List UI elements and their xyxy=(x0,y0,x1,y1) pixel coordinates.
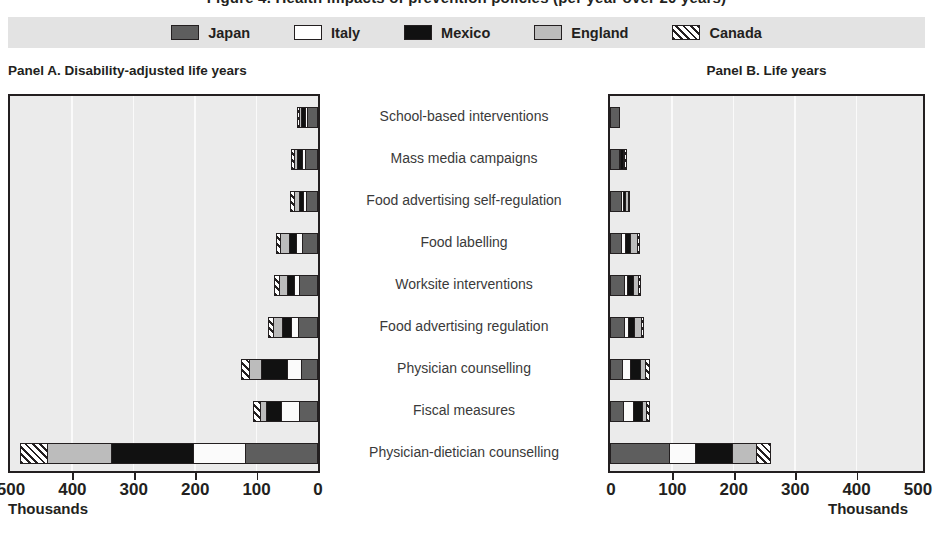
legend-label-canada: Canada xyxy=(709,25,761,41)
bar-segment-japan xyxy=(245,444,317,463)
category-label: Fiscal measures xyxy=(330,402,598,418)
axis-tick-label: 400 xyxy=(44,480,100,500)
gridline xyxy=(71,96,72,471)
axis-tick xyxy=(857,473,859,480)
legend-swatch-japan-icon xyxy=(171,25,199,40)
bar-segment-japan xyxy=(299,402,317,421)
axis-tick-label: 300 xyxy=(106,480,162,500)
bar-food-labelling xyxy=(610,233,640,254)
bar-segment-japan xyxy=(305,150,318,169)
bar-segment-japan xyxy=(611,150,619,169)
bar-segment-japan xyxy=(611,402,623,421)
bar-segment-japan xyxy=(611,234,621,253)
panel-a-caption: Panel A. Disability-adjusted life years xyxy=(8,63,247,78)
bar-segment-canada xyxy=(21,444,47,463)
gridline xyxy=(733,96,734,471)
legend-item-england: England xyxy=(534,25,628,41)
panel-b-caption: Panel B. Life years xyxy=(600,63,933,78)
axis-tick xyxy=(195,473,197,480)
legend-swatch-england-icon xyxy=(534,25,562,40)
legend-label-england: England xyxy=(571,25,628,41)
axis-tick-label: 0 xyxy=(290,480,346,500)
legend-swatch-canada-icon xyxy=(672,25,700,40)
bar-segment-mexico xyxy=(266,402,280,421)
bar-segment-japan xyxy=(307,108,317,127)
category-label: Mass media campaigns xyxy=(330,150,598,166)
bar-segment-mexico xyxy=(111,444,193,463)
legend-label-italy: Italy xyxy=(331,25,360,41)
bar-physician-dietician-counselling xyxy=(20,443,318,464)
bar-segment-england xyxy=(47,444,111,463)
axis-tick-label: 100 xyxy=(644,480,700,500)
category-label: Worksite interventions xyxy=(330,276,598,292)
bar-food-advertising-regulation xyxy=(268,317,318,338)
legend-item-japan: Japan xyxy=(171,25,250,41)
bar-segment-england xyxy=(249,360,262,379)
axis-tick-label: 400 xyxy=(829,480,885,500)
category-label: Food advertising self-regulation xyxy=(330,192,598,208)
legend-swatch-mexico-icon xyxy=(404,25,432,40)
bar-segment-canada xyxy=(624,150,625,169)
gridline xyxy=(194,96,195,471)
panel-a-plot-area xyxy=(8,94,320,473)
panel-b-plot-area xyxy=(608,94,925,473)
panel-a-unit-label: Thousands xyxy=(8,500,88,517)
bar-segment-england xyxy=(273,318,282,337)
axis-tick xyxy=(72,473,74,480)
bar-segment-japan xyxy=(611,360,622,379)
category-label: School-based interventions xyxy=(330,108,598,124)
bar-segment-canada xyxy=(756,444,770,463)
bar-worksite-interventions xyxy=(274,275,318,296)
gridline xyxy=(133,96,134,471)
bar-food-advertising-regulation xyxy=(610,317,644,338)
axis-tick xyxy=(734,473,736,480)
legend-label-japan: Japan xyxy=(208,25,250,41)
bar-segment-italy xyxy=(622,360,630,379)
axis-tick-label: 0 xyxy=(583,480,639,500)
legend-item-italy: Italy xyxy=(294,25,360,41)
bar-physician-dietician-counselling xyxy=(610,443,771,464)
axis-tick-label: 200 xyxy=(167,480,223,500)
category-label: Physician counselling xyxy=(330,360,598,376)
bar-segment-mexico xyxy=(261,360,286,379)
bar-food-advertising-self-regulation xyxy=(290,191,318,212)
bar-school-based-interventions xyxy=(610,107,620,128)
panel-b-unit-label: Thousands xyxy=(828,500,908,517)
bar-segment-canada xyxy=(641,318,643,337)
legend-swatch-italy-icon xyxy=(294,25,322,40)
axis-tick xyxy=(134,473,136,480)
bar-segment-japan xyxy=(299,276,317,295)
category-label: Food advertising regulation xyxy=(330,318,598,334)
bar-segment-italy xyxy=(669,444,695,463)
bar-segment-canada xyxy=(242,360,249,379)
gridline xyxy=(856,96,857,471)
bar-segment-mexico xyxy=(695,444,732,463)
bar-segment-mexico xyxy=(633,402,642,421)
bar-segment-italy xyxy=(193,444,245,463)
bar-segment-mexico xyxy=(630,360,639,379)
bar-segment-italy xyxy=(287,360,301,379)
bar-segment-italy xyxy=(623,402,633,421)
axis-tick xyxy=(672,473,674,480)
bar-segment-canada xyxy=(645,360,648,379)
chart-legend: Japan Italy Mexico England Canada xyxy=(8,17,925,48)
bar-segment-england xyxy=(279,276,287,295)
bar-worksite-interventions xyxy=(610,275,641,296)
bar-segment-japan xyxy=(611,444,669,463)
bar-school-based-interventions xyxy=(297,107,318,128)
bar-segment-canada xyxy=(637,234,639,253)
axis-tick xyxy=(795,473,797,480)
bar-fiscal-measures xyxy=(610,401,650,422)
legend-label-mexico: Mexico xyxy=(441,25,490,41)
legend-item-canada: Canada xyxy=(672,25,761,41)
bar-segment-japan xyxy=(306,192,317,211)
bar-food-advertising-self-regulation xyxy=(610,191,630,212)
bar-segment-italy xyxy=(281,402,299,421)
bar-segment-japan xyxy=(611,108,619,127)
category-label-column: School-based interventionsMass media cam… xyxy=(330,94,598,473)
bar-mass-media-campaigns xyxy=(291,149,318,170)
axis-tick-label: 100 xyxy=(229,480,285,500)
bar-segment-canada xyxy=(646,402,649,421)
figure-title: Figure 4. Health impacts of prevention p… xyxy=(0,0,933,7)
bar-segment-canada xyxy=(628,192,629,211)
